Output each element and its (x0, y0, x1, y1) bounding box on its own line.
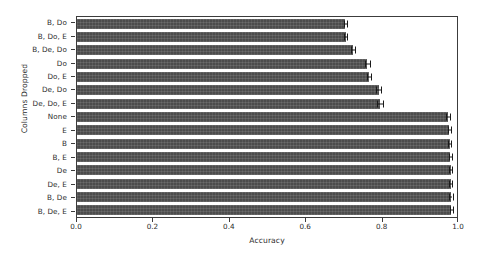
error-bar-cap-high (355, 47, 356, 54)
bar-row (77, 152, 457, 163)
error-bar-cap-high (451, 127, 452, 134)
error-bar-cap-high (451, 140, 452, 147)
error-bar-cap-low (448, 140, 449, 147)
error-bar-cap-high (452, 153, 453, 160)
y-axis-tick-label: De (0, 165, 72, 176)
y-axis-tick-label: Do (0, 58, 72, 69)
error-bar-cap-low (449, 153, 450, 160)
y-axis-tick-label: E (0, 125, 72, 136)
bar-row (77, 45, 457, 56)
x-axis-tick-label: 1.0 (452, 222, 463, 231)
y-axis-tick-label: None (0, 112, 72, 123)
x-axis-tick-label: 0.8 (376, 222, 387, 231)
x-axis-tick-labels: 0.00.20.40.60.81.0 (76, 222, 458, 234)
error-bar-cap-high (450, 113, 451, 120)
x-axis-tick-mark (382, 218, 383, 222)
error-bar-cap-low (450, 207, 451, 214)
x-axis-tick-mark (76, 218, 77, 222)
x-axis-label: Accuracy (76, 236, 458, 245)
error-bar-cap-high (347, 33, 348, 40)
error-bar-cap-low (449, 193, 450, 200)
error-bar-cap-low (448, 127, 449, 134)
bar (77, 59, 367, 69)
error-bar-cap-low (365, 60, 366, 67)
x-axis-tick-mark (229, 218, 230, 222)
error-bar-cap-low (446, 113, 447, 120)
bar (77, 139, 450, 149)
x-axis-tick-label: 0.4 (223, 222, 234, 231)
accuracy-bar-chart-figure: Columns Dropped B, DoB, Do, EB, De, DoDo… (0, 0, 487, 266)
error-bar-cap-high (381, 87, 382, 94)
bar (77, 19, 345, 29)
bar-row (77, 18, 457, 29)
error-bar-cap-low (376, 87, 377, 94)
plot-area (76, 16, 458, 218)
error-bar-cap-high (453, 193, 454, 200)
bar-row (77, 98, 457, 109)
bar-row (77, 138, 457, 149)
bar-row (77, 112, 457, 123)
bar (77, 152, 450, 162)
y-axis-tick-label: B, De, Do (0, 44, 72, 55)
error-bar-cap-low (344, 20, 345, 27)
y-axis-tick-label: B, Do, E (0, 31, 72, 42)
y-axis-tick-label: B (0, 139, 72, 150)
error-bar-cap-high (371, 73, 372, 80)
bar-row (77, 58, 457, 69)
error-bar-cap-high (370, 60, 371, 67)
bar-row (77, 72, 457, 83)
error-bar-cap-low (449, 167, 450, 174)
bar-row (77, 192, 457, 203)
x-axis-tick-label: 0.6 (299, 222, 310, 231)
error-bar-cap-high (452, 167, 453, 174)
bar-row (77, 125, 457, 136)
y-axis-tick-labels: B, DoB, Do, EB, De, DoDoDo, EDe, DoDe, D… (0, 16, 72, 218)
y-axis-tick-label: B, E (0, 152, 72, 163)
y-axis-tick-label: De, E (0, 179, 72, 190)
bar-row (77, 178, 457, 189)
error-bar-cap-low (351, 47, 352, 54)
bar-row (77, 205, 457, 216)
error-bar-cap-low (367, 73, 368, 80)
y-axis-tick-label: Do, E (0, 71, 72, 82)
y-axis-tick-label: De, Do, E (0, 98, 72, 109)
x-axis-tick-mark (457, 218, 458, 222)
bar (77, 72, 369, 82)
bar (77, 125, 449, 135)
error-bar-cap-high (383, 100, 384, 107)
error-bar-cap-low (449, 180, 450, 187)
error-bar-cap-high (452, 180, 453, 187)
y-axis-tick-label: De, Do (0, 85, 72, 96)
bar-row (77, 165, 457, 176)
bar (77, 165, 451, 175)
bar-row (77, 85, 457, 96)
bar (77, 112, 448, 122)
bar (77, 99, 380, 109)
bar (77, 85, 379, 95)
x-axis-tick-mark (152, 218, 153, 222)
error-bar-cap-high (347, 20, 348, 27)
y-axis-tick-label: B, De (0, 192, 72, 203)
error-bar-cap-high (453, 207, 454, 214)
error-bar-cap-low (344, 33, 345, 40)
bar-row (77, 32, 457, 43)
x-axis-tick-label: 0.2 (147, 222, 158, 231)
bar (77, 192, 451, 202)
x-axis-tick-label: 0.0 (70, 222, 81, 231)
y-axis-tick-label: B, De, E (0, 206, 72, 217)
bar (77, 205, 451, 215)
bar (77, 32, 346, 42)
y-axis-tick-label: B, Do (0, 17, 72, 28)
bar (77, 179, 451, 189)
error-bar-cap-low (377, 100, 378, 107)
bar (77, 45, 353, 55)
bar-series (77, 17, 457, 217)
x-axis-tick-mark (305, 218, 306, 222)
